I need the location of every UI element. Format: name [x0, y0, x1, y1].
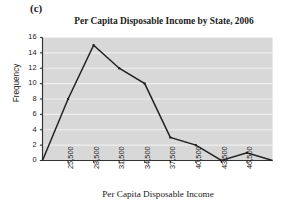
y-tick-label: 14 — [19, 49, 37, 57]
x-tick-label: 34,500 — [144, 146, 152, 169]
y-tick-label: 16 — [19, 33, 37, 41]
x-tick-label: 28,500 — [93, 146, 101, 169]
y-tick-label: 6 — [19, 110, 37, 118]
figure-panel: (c) Per Capita Disposable Income by Stat… — [0, 0, 293, 208]
x-tick-label: 37,500 — [169, 146, 177, 169]
x-tick-label: 31,500 — [118, 146, 126, 169]
x-tick-label: 40,500 — [195, 146, 203, 169]
y-tick-label: 12 — [19, 64, 37, 72]
x-tick-label: 46,500 — [246, 146, 254, 169]
x-tick-label: 25,500 — [67, 146, 75, 169]
y-tick-label: 2 — [19, 141, 37, 149]
y-tick-label: 0 — [19, 156, 37, 164]
x-tick-label: 43,500 — [221, 146, 229, 169]
y-tick-label: 8 — [19, 95, 37, 103]
y-tick-label: 10 — [19, 79, 37, 87]
plot-area — [0, 0, 293, 208]
y-tick-label: 4 — [19, 126, 37, 134]
